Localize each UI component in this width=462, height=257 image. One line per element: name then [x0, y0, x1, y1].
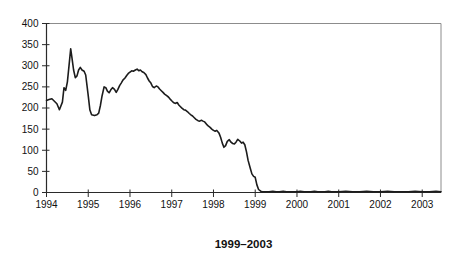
y-tick-label: 150 — [22, 124, 39, 135]
y-tick-label: 300 — [22, 60, 39, 71]
x-tick-label: 1998 — [202, 199, 225, 210]
x-tick-label: 2000 — [286, 199, 309, 210]
axis-lines — [47, 24, 442, 193]
chart-caption: 1999–2003 — [215, 238, 273, 250]
y-tick-label: 100 — [22, 145, 39, 156]
x-tick-label: 1996 — [119, 199, 142, 210]
x-tick-label: 1994 — [35, 199, 58, 210]
x-tick-label: 1999 — [244, 199, 267, 210]
x-tick-label: 2003 — [411, 199, 434, 210]
x-tick-label: 2001 — [328, 199, 351, 210]
data-line — [47, 49, 442, 192]
y-tick-label: 350 — [22, 39, 39, 50]
y-tick-label: 250 — [22, 81, 39, 92]
chart-svg: 0501001502002503003504001994199519961997… — [0, 0, 462, 257]
x-tick-label: 1997 — [161, 199, 184, 210]
y-tick-label: 400 — [22, 18, 39, 29]
chart-plot: 0501001502002503003504001994199519961997… — [22, 18, 441, 210]
y-tick-label: 0 — [33, 187, 39, 198]
y-tick-label: 200 — [22, 102, 39, 113]
x-tick-label: 2002 — [369, 199, 392, 210]
figure: 0501001502002503003504001994199519961997… — [0, 0, 462, 257]
y-tick-label: 50 — [27, 166, 39, 177]
plot-frame — [47, 24, 442, 193]
x-tick-label: 1995 — [77, 199, 100, 210]
